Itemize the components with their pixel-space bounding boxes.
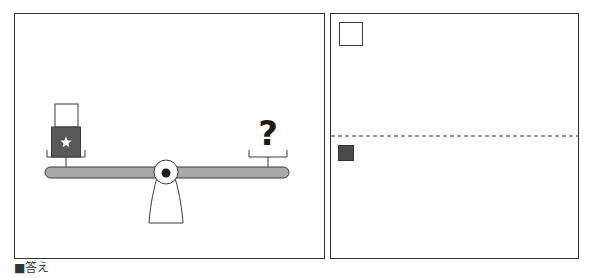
dark-square-marker [339,146,354,161]
white-square-marker [340,23,363,46]
answer-label: ■答え [14,261,49,275]
pivot-base [149,178,183,223]
question-mark-icon: ? [258,113,278,153]
illustration-layer: ? [0,0,589,278]
pivot-pin [162,169,171,178]
white-block [55,104,78,127]
